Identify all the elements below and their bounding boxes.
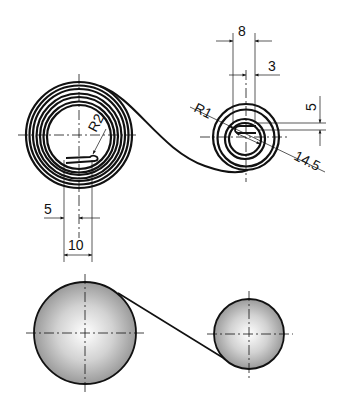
dim-3-label: 3 xyxy=(268,58,276,74)
right-inner-hook xyxy=(235,126,256,133)
dim-8-label: 8 xyxy=(238,23,246,39)
spring-technical-drawing: R2 5 10 8 3 xyxy=(0,0,344,418)
dim-14-5-label: 14.5 xyxy=(292,147,324,174)
dim-5-left: 5 xyxy=(44,201,52,217)
r1-label: R1 xyxy=(192,99,215,121)
r2-label: R2 xyxy=(85,111,108,135)
dim-3: 3 xyxy=(229,58,280,75)
r2-dimension: R2 xyxy=(85,111,108,154)
drum-view xyxy=(26,274,293,393)
dim-10: 10 xyxy=(68,237,84,253)
left-inner-hook xyxy=(66,156,98,163)
dim-5-right-label: 5 xyxy=(303,103,319,111)
